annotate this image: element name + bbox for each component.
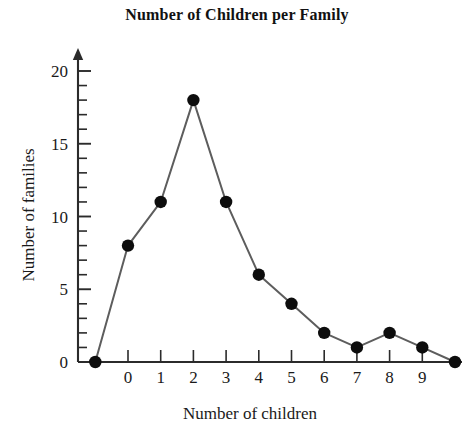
y-tick-label: 5 [60, 280, 69, 299]
x-tick-label: 6 [320, 368, 329, 387]
data-point-marker [383, 327, 395, 339]
y-tick-label: 20 [51, 62, 68, 81]
data-point-marker [416, 341, 428, 353]
x-tick-label: 7 [353, 368, 362, 387]
x-tick-label: 4 [255, 368, 264, 387]
data-point-marker [220, 196, 232, 208]
data-point-marker [155, 196, 167, 208]
x-tick-label: 2 [189, 368, 198, 387]
data-point-marker [318, 327, 330, 339]
y-tick-label: 10 [51, 208, 68, 227]
y-axis-arrow [73, 48, 83, 60]
series-line [95, 100, 455, 362]
x-tick-label: 9 [418, 368, 427, 387]
chart-container: Number of Children per Family Number of … [0, 0, 474, 442]
data-point-marker [449, 356, 461, 368]
x-tick-label: 3 [222, 368, 231, 387]
x-tick-label: 0 [124, 368, 133, 387]
data-point-marker [351, 341, 363, 353]
y-tick-label: 15 [51, 135, 68, 154]
plot-area: 051015200123456789 [0, 0, 474, 442]
data-point-marker [89, 356, 101, 368]
y-tick-label: 0 [60, 353, 69, 372]
data-point-marker [122, 239, 134, 251]
data-point-marker [285, 298, 297, 310]
data-point-marker [253, 269, 265, 281]
data-point-marker [187, 94, 199, 106]
x-tick-label: 8 [385, 368, 394, 387]
x-tick-label: 5 [287, 368, 296, 387]
x-tick-label: 1 [156, 368, 165, 387]
